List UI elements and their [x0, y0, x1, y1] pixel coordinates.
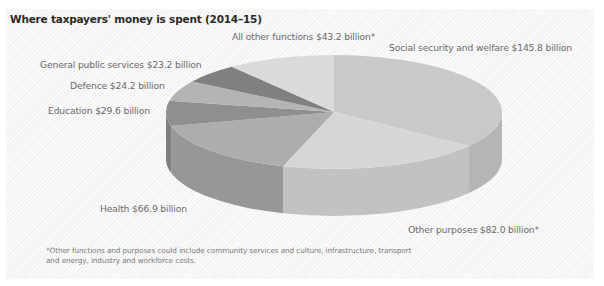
- label-defence: Defence $24.2 billion: [70, 80, 165, 91]
- footnote-line-1: *Other functions and purposes could incl…: [46, 246, 566, 256]
- label-general-public-services: General public services $23.2 billion: [40, 59, 201, 70]
- label-other-purposes: Other purposes $82.0 billion*: [408, 224, 539, 235]
- footnote-line-2: and energy, industry and workforce costs…: [46, 256, 566, 266]
- pie-top-faces: [166, 55, 502, 169]
- label-education: Education $29.6 billion: [48, 105, 150, 116]
- label-social-security: Social security and welfare $145.8 billi…: [389, 42, 572, 53]
- footnote: *Other functions and purposes could incl…: [46, 246, 566, 266]
- label-health: Health $66.9 billion: [100, 203, 187, 214]
- label-all-other-functions: All other functions $43.2 billion*: [232, 31, 375, 42]
